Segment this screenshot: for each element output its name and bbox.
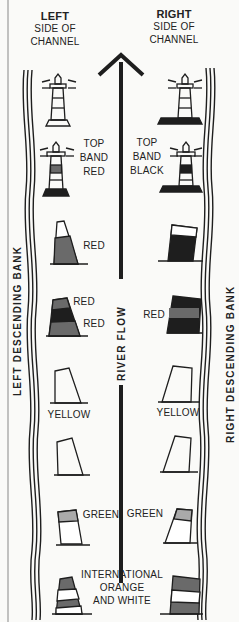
row2-right-line1: TOP [128, 137, 166, 149]
row4-left-bottom-label: RED [80, 318, 108, 330]
right-descending-bank-label: RIGHT DESCENDING BANK [225, 286, 236, 443]
right-buoy-plain-icon [160, 436, 198, 472]
navigation-aids-diagram: LEFT SIDE OF CHANNEL RIGHT SIDE OF CHANN… [0, 0, 239, 622]
row2-right-line2: BAND [128, 151, 166, 163]
river-flow-label: RIVER FLOW [116, 304, 127, 383]
left-header-title: LEFT [34, 10, 76, 22]
row3-left-label: RED [80, 240, 108, 252]
row4-right-label: RED [140, 309, 168, 321]
left-descending-bank-label: LEFT DESCENDING BANK [12, 246, 23, 396]
row5-left-label: YELLOW [46, 409, 92, 421]
row4-left-top-label: RED [70, 296, 98, 308]
row2-left-line1: TOP [78, 138, 110, 150]
row8-line3: AND WHITE [76, 595, 168, 607]
right-lighthouse-plain-icon [158, 74, 202, 124]
left-header-line2: CHANNEL [22, 36, 88, 48]
right-header-line1: SIDE OF [142, 21, 206, 33]
left-buoy-yellow-icon [50, 368, 88, 403]
left-header-line1: SIDE OF [22, 23, 88, 35]
row2-right-line3: BLACK [128, 165, 166, 177]
row8-line1: INTERNATIONAL [76, 569, 168, 581]
row7-right-label: GREEN [126, 508, 164, 520]
right-bank-icon [197, 68, 215, 620]
right-can-buoy-black-icon [158, 225, 203, 261]
right-lighthouse-top-band-black-icon [160, 142, 202, 192]
left-buoy-plain-icon [54, 438, 90, 475]
row5-right-label: YELLOW [155, 407, 201, 419]
row2-left-line2: BAND [78, 152, 110, 164]
right-buoy-yellow-icon [158, 366, 200, 402]
left-lighthouse-top-band-red-icon [40, 142, 74, 196]
right-can-buoy-red-band-icon [167, 296, 202, 333]
left-bank-icon [23, 70, 41, 620]
left-lighthouse-plain-icon [42, 74, 76, 126]
right-header-line2: CHANNEL [142, 34, 206, 46]
right-header-title: RIGHT [148, 8, 200, 20]
row7-left-label: GREEN [82, 509, 120, 521]
row8-line2: ORANGE [76, 582, 168, 594]
row2-left-line3: RED [78, 166, 110, 178]
right-buoy-green-band-icon [163, 509, 197, 543]
